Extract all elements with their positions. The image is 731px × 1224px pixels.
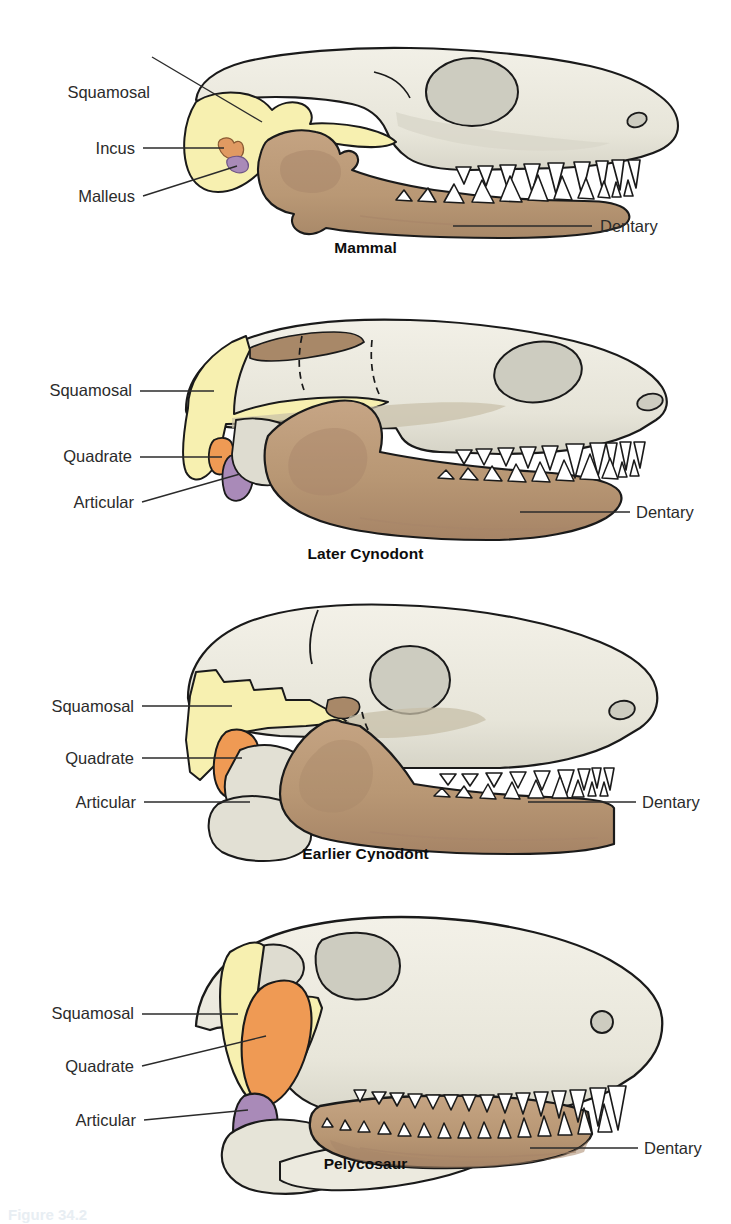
label-mammal-incus: Incus	[0, 140, 135, 157]
earlier-orbit	[370, 646, 450, 714]
label-earlier-quadrate: Quadrate	[0, 750, 134, 767]
mammal-orbit	[426, 58, 518, 126]
label-earlier-squamosal: Squamosal	[0, 698, 134, 715]
label-mammal-malleus: Malleus	[0, 188, 135, 205]
caption-later-cynodont: Later Cynodont	[0, 545, 731, 563]
caption-mammal: Mammal	[0, 239, 731, 257]
pelyco-orbit	[316, 933, 400, 1000]
leader-articular	[144, 1110, 248, 1120]
label-pelyco-dentary: Dentary	[644, 1140, 702, 1157]
caption-earlier-cynodont: Earlier Cynodont	[0, 845, 731, 863]
label-earlier-articular: Articular	[0, 794, 136, 811]
label-earlier-dentary: Dentary	[642, 794, 700, 811]
label-later-dentary: Dentary	[636, 504, 694, 521]
mammal-dentary-shading	[280, 150, 341, 193]
figure-caption-partial: Figure 34.2	[8, 1206, 87, 1223]
label-pelyco-squamosal: Squamosal	[0, 1005, 134, 1022]
pelyco-nostril	[591, 1011, 613, 1033]
label-mammal-squamosal: Squamosal	[0, 84, 150, 101]
label-later-squamosal: Squamosal	[0, 382, 132, 399]
label-later-articular: Articular	[0, 494, 134, 511]
label-pelyco-quadrate: Quadrate	[0, 1058, 134, 1075]
label-mammal-dentary: Dentary	[600, 218, 658, 235]
evolution-of-mammalian-jaw-figure: Mammal Squamosal Incus Malleus Dentary	[0, 0, 731, 1224]
label-later-quadrate: Quadrate	[0, 448, 132, 465]
caption-pelycosaur: Pelycosaur	[0, 1155, 731, 1173]
label-pelyco-articular: Articular	[0, 1112, 136, 1129]
